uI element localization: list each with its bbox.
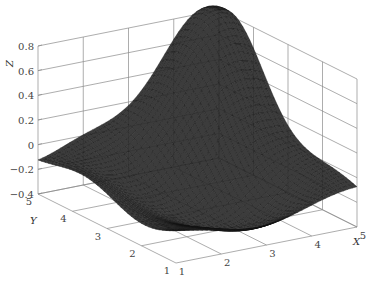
y-axis-label: Y (30, 215, 38, 226)
z-tick-label: 0.8 (18, 41, 34, 52)
z-tick-mark (38, 94, 42, 95)
z-tick-mark (38, 119, 42, 120)
y-tick-label: 5 (26, 196, 32, 207)
z-tick-mark (38, 168, 42, 169)
z-tick-mark (38, 144, 42, 145)
z-tick-label: 0.2 (18, 115, 34, 126)
y-tick-label: 4 (60, 213, 66, 224)
z-tick-mark (38, 45, 42, 46)
x-tick-label: 2 (224, 257, 230, 268)
z-tick-label: 0 (28, 140, 34, 151)
y-tick-label: 2 (129, 248, 135, 259)
y-tick-label: 3 (95, 231, 101, 242)
x-tick-label: 4 (315, 239, 321, 250)
y-tick-label: 1 (164, 265, 170, 276)
z-tick-label: −0.2 (10, 164, 34, 175)
z-tick-label: 0.4 (18, 90, 34, 101)
x-tick-label: 3 (269, 248, 275, 259)
surface-mesh (38, 6, 357, 231)
z-tick-label: 0.6 (18, 66, 34, 77)
z-tick-mark (38, 70, 42, 71)
z-axis-label: Z (4, 59, 15, 68)
z-tick-mark (38, 193, 42, 194)
x-tick-label: 1 (179, 266, 185, 277)
x-tick-label: 5 (360, 230, 366, 241)
x-axis-label: X (352, 236, 361, 247)
surface-plot: −0.4−0.200.20.40.60.81234512345 Z Y X (0, 0, 372, 287)
